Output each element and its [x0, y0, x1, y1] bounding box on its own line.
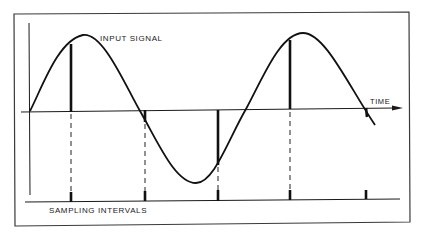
figure-frame: [14, 12, 410, 226]
amplitude-axis: [29, 23, 30, 195]
time-axis-label: TIME: [370, 97, 390, 106]
input-signal-curve: [30, 33, 375, 183]
time-axis-arrow-icon: [392, 106, 403, 111]
sampling-intervals-label: SAMPLING INTERVALS: [49, 206, 147, 215]
time-axis: [21, 108, 396, 112]
sampling-diagram: [0, 0, 425, 233]
sample-5: [366, 108, 367, 199]
sampling-baseline: [25, 199, 400, 202]
input-signal-label: INPUT SIGNAL: [100, 34, 163, 43]
